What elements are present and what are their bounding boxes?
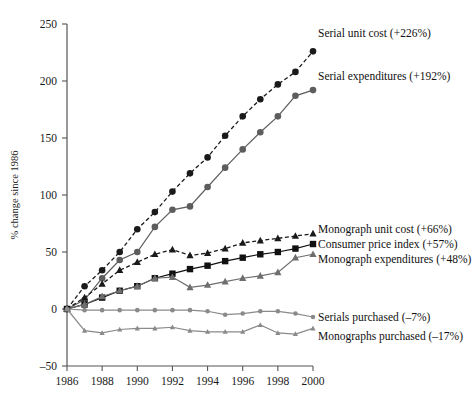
data-point <box>100 308 105 313</box>
series-annotation-label: Monographs purchased (–17%) <box>318 330 463 343</box>
data-point <box>116 257 123 264</box>
x-tick-label: 2000 <box>302 375 325 387</box>
y-tick-label: 0 <box>51 303 57 315</box>
data-point <box>188 308 193 313</box>
data-point <box>257 129 264 136</box>
data-point <box>116 249 123 256</box>
data-point <box>205 309 210 314</box>
data-point <box>169 246 176 253</box>
data-point <box>169 207 176 214</box>
data-point <box>258 309 263 314</box>
series-labels-layer: Serial unit cost (+226%)Serial expenditu… <box>318 27 472 343</box>
y-tick-label: 200 <box>40 75 58 87</box>
y-tick-label: 150 <box>40 132 58 144</box>
x-tick-label: 1986 <box>56 375 79 387</box>
y-tick-label: 250 <box>40 18 58 30</box>
data-point <box>257 96 264 103</box>
data-point <box>239 113 246 120</box>
series-annotation-label: Serials purchased (–7%) <box>318 311 431 324</box>
data-point <box>276 309 281 314</box>
data-point <box>222 132 229 139</box>
series-annotation-label: Serial unit cost (+226%) <box>318 27 431 40</box>
y-tick-label: –50 <box>39 360 58 372</box>
series-annotation-label: Monograph expenditures (+48%) <box>318 253 472 266</box>
data-point <box>117 308 122 313</box>
x-tick-label: 1988 <box>91 375 114 387</box>
line-chart: 250200150100500–501986198819901992199419… <box>0 0 472 408</box>
data-point <box>223 312 228 317</box>
data-point <box>134 249 141 256</box>
data-point <box>310 87 317 94</box>
x-tick-label: 1996 <box>231 375 254 387</box>
data-point <box>257 251 263 257</box>
y-tick-label: 100 <box>40 189 58 201</box>
series-annotation-label: Monograph unit cost (+66%) <box>318 223 452 236</box>
series-serial-expenditures <box>64 87 317 312</box>
x-tick-label: 1992 <box>161 375 184 387</box>
data-point <box>204 184 211 191</box>
data-point <box>187 203 194 210</box>
y-axis-title-text: % change since 1986 <box>9 151 20 240</box>
data-point <box>81 283 88 290</box>
data-point <box>152 224 159 231</box>
data-point <box>204 262 210 268</box>
data-point <box>169 188 176 195</box>
data-point <box>275 113 282 120</box>
data-point <box>292 69 299 76</box>
data-point <box>170 308 175 313</box>
data-point <box>187 170 194 177</box>
series-serials-purchased <box>65 307 316 320</box>
data-point <box>186 252 193 259</box>
x-tick-label: 1990 <box>126 375 149 387</box>
data-point <box>292 93 299 100</box>
axes: 250200150100500–501986198819901992199419… <box>39 18 325 387</box>
data-point <box>239 239 246 246</box>
data-point <box>310 241 316 247</box>
data-point <box>82 308 87 313</box>
chart-container: 250200150100500–501986198819901992199419… <box>0 0 472 408</box>
data-point <box>275 249 281 255</box>
data-point <box>187 266 193 272</box>
data-point <box>309 250 316 257</box>
data-point <box>153 308 158 313</box>
series-annotation-label: Consumer price index (+57%) <box>318 238 458 251</box>
series-annotation-label: Serial expenditures (+192%) <box>318 70 450 83</box>
data-point <box>240 311 245 316</box>
data-point <box>293 311 298 316</box>
data-point <box>311 315 316 320</box>
data-point <box>204 154 211 161</box>
data-point <box>239 146 246 153</box>
data-point <box>292 232 299 239</box>
data-point <box>240 255 246 261</box>
data-point <box>275 81 282 88</box>
data-point <box>309 230 316 237</box>
data-point <box>222 258 228 264</box>
data-point <box>310 48 317 55</box>
data-series-layer <box>63 48 316 336</box>
data-point <box>134 226 141 233</box>
data-point <box>258 322 263 327</box>
data-point <box>222 164 229 171</box>
data-point <box>292 245 298 251</box>
y-tick-label: 50 <box>46 246 58 258</box>
data-point <box>310 326 315 331</box>
data-point <box>257 237 264 244</box>
x-tick-label: 1994 <box>196 375 219 387</box>
data-point <box>152 209 159 216</box>
x-tick-label: 1998 <box>266 375 289 387</box>
data-point <box>99 267 106 274</box>
y-axis-title: % change since 1986 <box>9 151 20 240</box>
data-point <box>135 308 140 313</box>
